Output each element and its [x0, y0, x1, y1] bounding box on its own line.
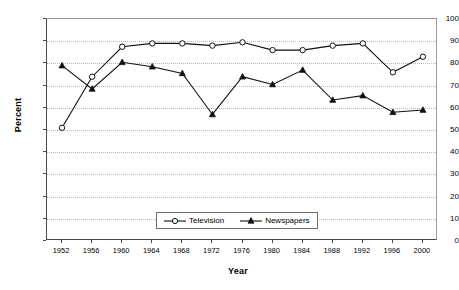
x-tick-mark — [422, 240, 423, 243]
data-point-open-circle — [240, 40, 245, 45]
y-tick-label: 30 — [417, 169, 459, 178]
data-point-open-circle — [360, 41, 365, 46]
data-point-filled-triangle — [240, 74, 246, 80]
x-tick-label: 1988 — [315, 246, 349, 255]
y-tick-mark — [43, 240, 46, 241]
x-tick-mark — [362, 240, 363, 243]
y-tick-label: 100 — [417, 14, 459, 23]
series-line-television — [62, 42, 423, 127]
y-tick-label: 80 — [417, 58, 459, 67]
data-point-filled-triangle — [300, 67, 306, 73]
y-tick-mark — [43, 107, 46, 108]
x-tick-label: 1960 — [104, 246, 138, 255]
x-tick-label: 1964 — [134, 246, 168, 255]
legend-label-television: Television — [189, 217, 224, 225]
x-tick-label: 1968 — [164, 246, 198, 255]
legend-label-newspapers: Newspapers — [265, 217, 309, 225]
x-tick-mark — [272, 240, 273, 243]
y-tick-label: 90 — [417, 36, 459, 45]
data-point-open-circle — [390, 70, 395, 75]
x-tick-mark — [121, 240, 122, 243]
data-point-open-circle — [300, 47, 305, 52]
filled-triangle-marker-icon — [240, 216, 262, 226]
x-tick-mark — [151, 240, 152, 243]
x-tick-mark — [91, 240, 92, 243]
data-point-open-circle — [150, 41, 155, 46]
data-point-open-circle — [89, 74, 94, 79]
series-line-newspapers — [62, 62, 423, 114]
y-tick-label: 10 — [417, 214, 459, 223]
data-point-open-circle — [180, 41, 185, 46]
y-tick-label: 50 — [417, 125, 459, 134]
x-axis-title: Year — [38, 266, 438, 276]
data-point-filled-triangle — [119, 59, 125, 65]
x-tick-label: 1980 — [255, 246, 289, 255]
plot-area — [46, 18, 437, 240]
y-tick-label: 60 — [417, 103, 459, 112]
y-tick-mark — [43, 196, 46, 197]
y-tick-mark — [43, 18, 46, 19]
y-tick-label: 20 — [417, 192, 459, 201]
y-tick-mark — [43, 129, 46, 130]
data-point-open-circle — [210, 43, 215, 48]
data-point-filled-triangle — [59, 62, 65, 68]
y-axis-title: Percent — [13, 75, 23, 155]
y-tick-mark — [43, 173, 46, 174]
legend: Television Newspapers — [156, 212, 318, 229]
x-tick-label: 1972 — [194, 246, 228, 255]
data-point-open-circle — [270, 47, 275, 52]
x-tick-mark — [242, 240, 243, 243]
y-tick-mark — [43, 40, 46, 41]
x-tick-label: 1976 — [225, 246, 259, 255]
x-tick-mark — [61, 240, 62, 243]
y-tick-mark — [43, 85, 46, 86]
x-tick-mark — [392, 240, 393, 243]
x-tick-label: 1952 — [44, 246, 78, 255]
legend-entry-newspapers: Newspapers — [240, 216, 309, 226]
data-point-open-circle — [59, 125, 64, 130]
series-layer — [47, 19, 438, 241]
x-tick-mark — [332, 240, 333, 243]
x-tick-label: 2000 — [405, 246, 439, 255]
y-tick-label: 70 — [417, 81, 459, 90]
y-tick-label: 0 — [417, 236, 459, 245]
data-point-filled-triangle — [360, 92, 366, 98]
y-tick-label: 40 — [417, 147, 459, 156]
open-circle-marker-icon — [164, 216, 186, 226]
x-tick-label: 1996 — [375, 246, 409, 255]
x-tick-mark — [302, 240, 303, 243]
x-tick-label: 1956 — [74, 246, 108, 255]
line-chart: Percent 0102030405060708090100 195219561… — [0, 0, 459, 290]
legend-entry-television: Television — [164, 216, 224, 226]
y-tick-mark — [43, 151, 46, 152]
x-tick-mark — [181, 240, 182, 243]
x-tick-mark — [211, 240, 212, 243]
x-tick-label: 1992 — [345, 246, 379, 255]
y-tick-mark — [43, 62, 46, 63]
data-point-open-circle — [330, 43, 335, 48]
x-tick-label: 1984 — [285, 246, 319, 255]
data-point-open-circle — [119, 44, 124, 49]
y-tick-mark — [43, 218, 46, 219]
